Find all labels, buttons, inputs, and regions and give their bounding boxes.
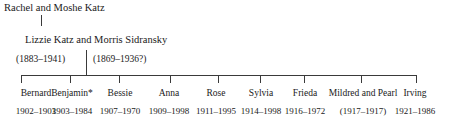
child-name: Irving: [403, 89, 426, 99]
child-name: Bessie: [108, 89, 133, 99]
child-name: Sylvia: [249, 89, 273, 99]
child-name: Mildred and Pearl: [329, 89, 398, 99]
child-name: Benjamin*: [51, 89, 93, 99]
child-dates: 1914–1998: [241, 107, 282, 116]
child-dates: 1911–1995: [196, 107, 236, 116]
child-dates: 1921–1986: [395, 107, 436, 116]
child-connector-tick: [21, 75, 22, 83]
child-dates: 1907–1970: [100, 107, 141, 116]
child-name: Frieda: [293, 89, 317, 99]
sibling-horizontal-bar: [21, 75, 417, 76]
child-connector-tick: [304, 75, 305, 83]
generation-1-names: Rachel and Moshe Katz: [4, 3, 105, 14]
child-connector-tick: [119, 75, 120, 83]
child-connector-tick: [170, 75, 171, 83]
child-connector-tick: [416, 75, 417, 83]
child-connector-tick: [260, 75, 261, 83]
child-connector-tick: [70, 75, 71, 83]
family-tree-diagram: Rachel and Moshe Katz Lizzie Katz and Mo…: [0, 0, 460, 123]
generation-2-names: Lizzie Katz and Morris Sidransky: [25, 35, 167, 46]
child-name: Bernard: [21, 89, 52, 99]
child-connector-tick: [218, 75, 219, 83]
generation-2-date-left: (1883–1941): [16, 55, 65, 65]
child-dates: 1909–1998: [149, 107, 190, 116]
child-name: Rose: [207, 89, 226, 99]
child-dates: 1902–1903: [16, 107, 57, 116]
child-dates: 1903–1984: [52, 107, 93, 116]
generation-1-connector-line: [41, 15, 42, 26]
child-dates: (1917–1917): [340, 107, 387, 116]
child-name: Anna: [159, 89, 180, 99]
generation-2-connector-line: [86, 50, 87, 76]
child-dates: 1916–1972: [285, 107, 326, 116]
child-connector-tick: [361, 75, 362, 83]
generation-2-date-right: (1869–1936?): [93, 55, 146, 65]
